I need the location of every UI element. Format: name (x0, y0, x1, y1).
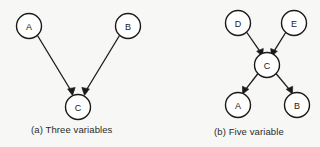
panel-a-graph: A B C (17, 14, 141, 120)
panel-a-caption: (a) Three variables (31, 124, 112, 135)
edge-c-to-b (276, 74, 293, 95)
node-e-label: E (291, 19, 297, 29)
edge-e-to-c (271, 32, 286, 56)
node-a-label: A (235, 101, 241, 111)
edge-e-to-c-line (273, 32, 286, 53)
edge-d-to-c-line (247, 32, 262, 53)
edge-a-to-c-line (38, 36, 72, 92)
node-c-label: C (264, 61, 271, 71)
edge-c-to-a (242, 74, 258, 95)
edge-b-to-c-arrowhead (82, 87, 90, 95)
panel-b-caption: (b) Five variable (214, 126, 284, 137)
node-a-label: A (26, 22, 32, 32)
edge-a-to-c-arrowhead (68, 87, 76, 95)
edge-b-to-c-line (86, 36, 120, 92)
panel-b-graph: D E C A B (226, 11, 310, 118)
node-c-label: C (75, 103, 82, 113)
node-b-label: B (125, 22, 131, 32)
node-c-panel-b[interactable]: C (255, 53, 280, 78)
edge-d-to-c (247, 32, 264, 56)
causal-graph-figure: A B C (0, 0, 320, 147)
node-c-panel-a[interactable]: C (66, 95, 91, 120)
node-b-label: B (294, 101, 300, 111)
node-b-panel-b[interactable]: B (285, 93, 310, 118)
node-d-label: D (235, 19, 242, 29)
node-a-panel-b[interactable]: A (226, 93, 251, 118)
node-d-panel-b[interactable]: D (226, 11, 251, 36)
node-b-panel-a[interactable]: B (116, 14, 141, 39)
node-e-panel-b[interactable]: E (282, 11, 307, 36)
edge-a-to-c (38, 36, 76, 96)
node-a-panel-a[interactable]: A (17, 14, 42, 39)
edge-b-to-c (82, 36, 120, 96)
